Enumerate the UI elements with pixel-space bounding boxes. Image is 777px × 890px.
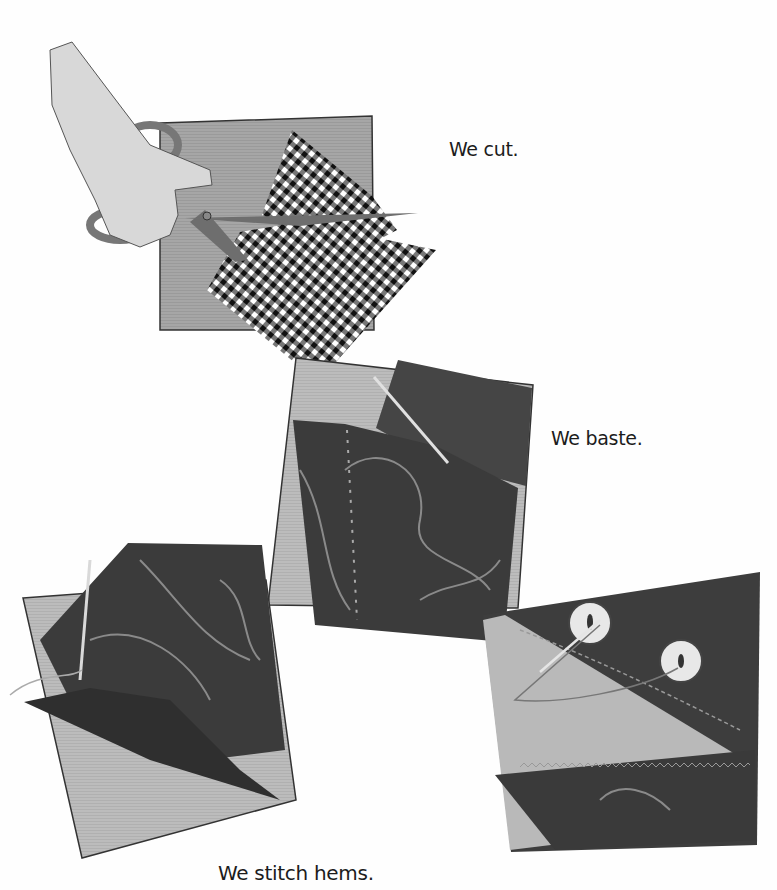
buttons-illustration xyxy=(483,572,760,852)
hemming-illustration xyxy=(10,543,296,858)
page: We cut. We baste. We stitch hems. xyxy=(0,0,777,890)
zigzag-stitch-lower xyxy=(520,762,750,768)
caption-stitch-hems: We stitch hems. xyxy=(218,861,374,885)
basting-illustration xyxy=(268,358,533,642)
cutting-illustration xyxy=(50,42,436,382)
gingham-fabric-bottom xyxy=(207,222,436,382)
illustration-scene xyxy=(0,0,777,890)
scissors-screw xyxy=(203,212,211,220)
caption-baste: We baste. xyxy=(551,427,642,449)
caption-cut: We cut. xyxy=(449,138,518,160)
